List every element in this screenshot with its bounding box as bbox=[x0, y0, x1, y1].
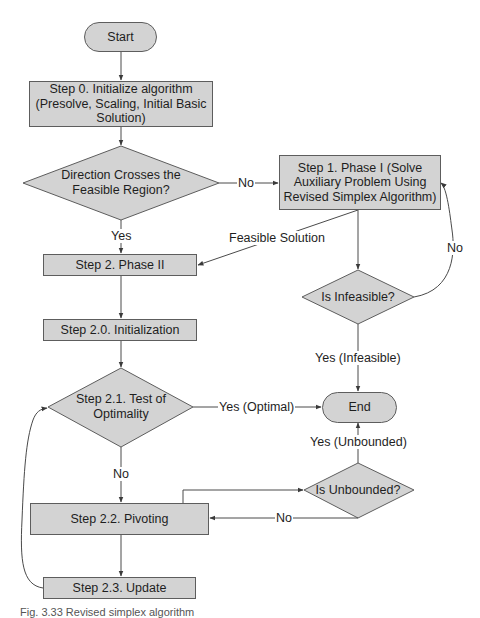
edge-label-direction-no: No bbox=[237, 176, 255, 190]
decision-optimality-line1: Step 2.1. Test of bbox=[76, 392, 166, 407]
decision-optimality-label: Step 2.1. Test of Optimality bbox=[66, 390, 176, 424]
end-label: End bbox=[348, 400, 370, 415]
end-terminal: End bbox=[322, 392, 397, 423]
edge-label-feasible-solution: Feasible Solution bbox=[228, 231, 326, 245]
step1-line3: Revised Simplex Algorithm) bbox=[284, 190, 437, 205]
step2-2-label: Step 2.2. Pivoting bbox=[71, 512, 169, 527]
decision-unbounded-text: Is Unbounded? bbox=[316, 483, 401, 498]
decision-infeasible-label: Is Infeasible? bbox=[310, 289, 406, 305]
step2-label: Step 2. Phase II bbox=[76, 258, 165, 273]
step0-line2: (Presolve, Scaling, Initial Basic bbox=[36, 97, 207, 112]
start-label: Start bbox=[107, 30, 133, 45]
edge-label-infeasible-no: No bbox=[446, 241, 464, 255]
step2-0-label: Step 2.0. Initialization bbox=[61, 323, 180, 338]
edge-label-optimality-no: No bbox=[112, 467, 130, 481]
step2-phase2-box: Step 2. Phase II bbox=[43, 254, 197, 276]
decision-optimality-line2: Optimality bbox=[93, 407, 149, 422]
edge-label-unbounded-no: No bbox=[275, 511, 293, 525]
figure-caption: Fig. 3.33 Revised simplex algorithm bbox=[20, 606, 194, 618]
edge-label-unbounded-yes: Yes (Unbounded) bbox=[309, 435, 408, 449]
edge-label-direction-yes: Yes bbox=[110, 229, 132, 243]
decision-direction-label: Direction Crosses the Feasible Region? bbox=[48, 166, 194, 200]
decision-direction-line1: Direction Crosses the bbox=[61, 168, 181, 183]
step2-3-update-box: Step 2.3. Update bbox=[43, 577, 196, 599]
step2-0-initialization-box: Step 2.0. Initialization bbox=[43, 319, 197, 341]
step1-line1: Step 1. Phase I (Solve bbox=[298, 161, 422, 176]
edge-label-infeasible-yes: Yes (Infeasible) bbox=[314, 351, 402, 365]
decision-infeasible-text: Is Infeasible? bbox=[321, 290, 395, 305]
start-terminal: Start bbox=[84, 22, 157, 52]
decision-unbounded-label: Is Unbounded? bbox=[308, 482, 408, 498]
step0-line1: Step 0. Initialize algorithm bbox=[49, 82, 192, 97]
step0-line3: Solution) bbox=[96, 111, 145, 126]
step2-2-pivoting-box: Step 2.2. Pivoting bbox=[30, 503, 209, 535]
decision-direction-line2: Feasible Region? bbox=[72, 183, 169, 198]
step0-initialize-box: Step 0. Initialize algorithm (Presolve, … bbox=[29, 81, 213, 127]
edge-label-optimal-yes: Yes (Optimal) bbox=[218, 400, 295, 414]
step1-phase1-box: Step 1. Phase I (Solve Auxiliary Problem… bbox=[279, 155, 441, 210]
step2-3-label: Step 2.3. Update bbox=[73, 581, 167, 596]
step1-line2: Auxiliary Problem Using bbox=[294, 175, 427, 190]
